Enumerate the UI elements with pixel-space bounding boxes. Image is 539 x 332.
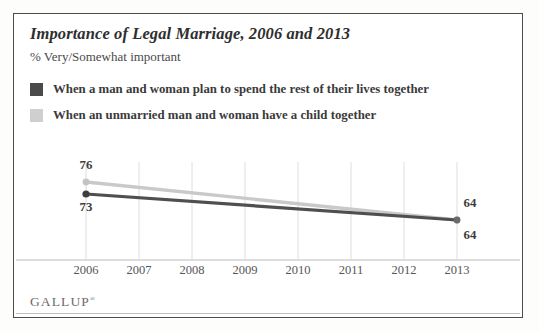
x-tick-2013: 2013 (430, 263, 484, 278)
x-tick-2012: 2012 (377, 263, 431, 278)
legend-label-light-series: When an unmarried man and woman have a c… (53, 108, 376, 123)
chart-card: Importance of Legal Marriage, 2006 and 2… (13, 13, 523, 318)
footer-divider (16, 313, 520, 314)
data-label-dark-2013: 64 (450, 228, 490, 243)
grid-lines (86, 162, 457, 260)
page-title: Importance of Legal Marriage, 2006 and 2… (30, 24, 350, 44)
x-tick-2010: 2010 (271, 263, 325, 278)
chart-legend: When a man and woman plan to spend the r… (30, 76, 500, 128)
legend-swatch-dark-icon (30, 83, 43, 96)
x-tick-2008: 2008 (165, 263, 219, 278)
legend-item-light-series: When an unmarried man and woman have a c… (30, 102, 500, 128)
x-tick-2006: 2006 (59, 263, 113, 278)
registered-trademark-icon: ® (90, 295, 95, 303)
data-label-light-2013: 64 (450, 196, 490, 211)
chart-subtitle: % Very/Somewhat important (30, 49, 181, 65)
x-tick-2007: 2007 (112, 263, 166, 278)
gallup-logo: GALLUP® (30, 294, 95, 310)
x-tick-2009: 2009 (218, 263, 272, 278)
x-axis-labels: 2006 2007 2008 2009 2010 2011 2012 2013 (14, 263, 522, 283)
legend-label-dark-series: When a man and woman plan to spend the r… (53, 82, 429, 97)
data-label-dark-2006: 73 (66, 200, 106, 215)
data-label-light-2006: 76 (66, 158, 106, 173)
plot-area: 76 73 64 64 (14, 132, 522, 277)
legend-item-dark-series: When a man and woman plan to spend the r… (30, 76, 500, 102)
gallup-logo-text: GALLUP (30, 294, 90, 309)
x-tick-2011: 2011 (324, 263, 378, 278)
legend-swatch-light-icon (30, 109, 43, 122)
